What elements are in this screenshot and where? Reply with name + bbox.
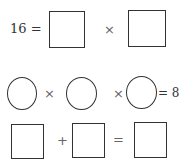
answer-circle-1[interactable] <box>7 77 37 110</box>
answer-box-addend-2[interactable] <box>72 123 105 158</box>
answer-circle-2[interactable] <box>66 77 97 110</box>
answer-box-factor-1[interactable] <box>49 11 85 48</box>
answer-circle-3[interactable] <box>126 76 157 109</box>
multiply-sign: × <box>113 87 124 100</box>
multiply-sign: × <box>104 23 115 36</box>
equals-sign: = <box>113 133 124 146</box>
answer-box-factor-2[interactable] <box>128 10 166 47</box>
multiply-sign: × <box>44 87 55 100</box>
plus-sign: + <box>57 134 68 147</box>
equation-lhs: 16 = <box>10 22 42 36</box>
answer-box-sum[interactable] <box>134 122 167 158</box>
answer-box-addend-1[interactable] <box>11 124 44 159</box>
equation-rhs: = 8 <box>158 86 180 100</box>
